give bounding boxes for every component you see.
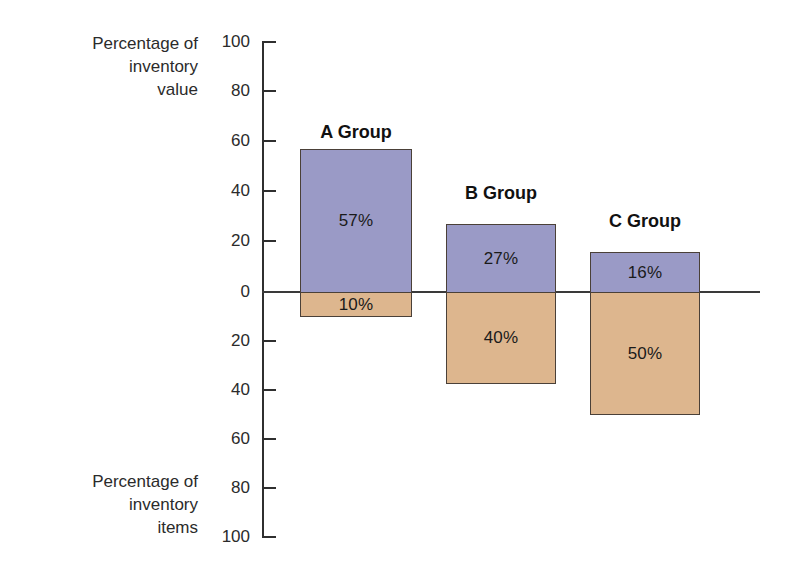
- bar-segment-items: 50%: [590, 292, 700, 415]
- group-title: A Group: [286, 122, 426, 143]
- bar-value-label: 27%: [484, 249, 519, 269]
- y-tick-label: 20: [196, 332, 250, 349]
- y-tick-label: 60: [196, 430, 250, 447]
- y-tick-label: 100: [196, 528, 250, 545]
- bar-segment-items: 40%: [446, 292, 556, 384]
- y-tick-mark: [262, 190, 276, 192]
- bar-items-label: 50%: [628, 344, 663, 364]
- bar-items-label: 10%: [339, 295, 374, 315]
- bar-segment-items: 10%: [300, 292, 412, 317]
- y-tick-label: 100: [196, 33, 250, 50]
- y-tick-label: 20: [196, 232, 250, 249]
- abc-inventory-chart: Percentage of inventory value Percentage…: [0, 0, 799, 575]
- y-tick-mark: [262, 140, 276, 142]
- bar-segment-value: 27%: [446, 224, 556, 292]
- y-tick-label: 80: [196, 82, 250, 99]
- y-axis-line: [262, 42, 264, 538]
- y-tick-label: 60: [196, 132, 250, 149]
- y-tick-mark: [262, 536, 276, 538]
- y-tick-mark: [262, 90, 276, 92]
- y-tick-mark: [262, 240, 276, 242]
- y-tick-label: 40: [196, 182, 250, 199]
- y-tick-label: 40: [196, 381, 250, 398]
- y-tick-mark: [262, 487, 276, 489]
- group-title: C Group: [575, 211, 715, 232]
- y-tick-label: 80: [196, 479, 250, 496]
- bar-value-label: 57%: [339, 211, 374, 231]
- y-tick-mark: [262, 41, 276, 43]
- y-tick-mark: [262, 389, 276, 391]
- y-axis-caption-bottom: Percentage of inventory items: [38, 470, 198, 539]
- bar-items-label: 40%: [484, 328, 519, 348]
- group-title: B Group: [431, 183, 571, 204]
- bar-segment-value: 57%: [300, 149, 412, 292]
- bar-segment-value: 16%: [590, 252, 700, 292]
- y-tick-label: 0: [196, 283, 250, 300]
- y-axis-caption-top: Percentage of inventory value: [38, 32, 198, 101]
- y-tick-mark: [262, 438, 276, 440]
- bar-value-label: 16%: [628, 263, 663, 283]
- y-tick-mark: [262, 340, 276, 342]
